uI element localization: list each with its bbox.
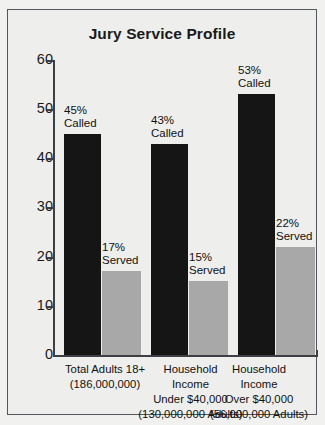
bar-served-group2 [189, 281, 228, 355]
cat-line-3: Over $40,000 [200, 392, 318, 407]
bar-called-group1 [64, 134, 101, 355]
chart-frame: Jury Service Profile 60 50 40 30 20 10 0 [7, 9, 317, 415]
bar-label-pct: 45% [64, 104, 97, 118]
chart-title: Jury Service Profile [8, 25, 316, 43]
bar-label-pct: 22% [276, 217, 312, 231]
bar-label-called-group3: 53% Called [238, 64, 271, 91]
bar-label-word: Served [276, 230, 312, 244]
bar-label-pct: 15% [189, 251, 225, 265]
bar-label-word: Served [102, 254, 138, 268]
x-axis-line [53, 355, 318, 357]
y-tick-label-0: 0 [19, 347, 53, 362]
bar-label-called-group2: 43% Called [151, 114, 184, 141]
bar-label-word: Called [238, 77, 271, 91]
plot-area: 45% Called 17% Served 43% Called 15% Ser… [53, 60, 318, 355]
bar-label-word: Called [151, 127, 184, 141]
bar-label-served-group1: 17% Served [102, 241, 138, 268]
x-category-label-group3: Household Income Over $40,000 (56,000,00… [200, 362, 318, 422]
bar-served-group1 [102, 271, 141, 355]
bar-called-group3 [238, 94, 275, 355]
bar-label-served-group3: 22% Served [276, 217, 312, 244]
chart-figure: Jury Service Profile 60 50 40 30 20 10 0 [0, 0, 325, 425]
bar-label-served-group2: 15% Served [189, 251, 225, 278]
bar-called-group2 [151, 144, 188, 355]
bar-label-word: Served [189, 264, 225, 278]
cat-line-2: Income [200, 377, 318, 392]
bar-label-word: Called [64, 117, 97, 131]
cat-line-1: Household [200, 362, 318, 377]
bar-served-group3 [276, 247, 315, 355]
bar-label-called-group1: 45% Called [64, 104, 97, 131]
bar-label-pct: 53% [238, 64, 271, 78]
bar-label-pct: 43% [151, 114, 184, 128]
cat-line-4: (56,000,000 Adults) [200, 407, 318, 422]
bar-label-pct: 17% [102, 241, 138, 255]
